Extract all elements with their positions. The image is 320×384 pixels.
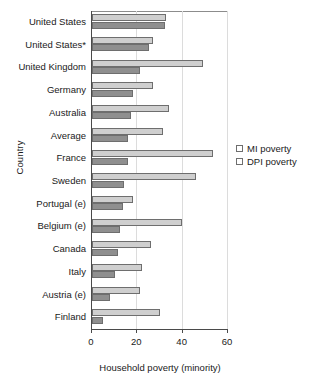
- bar-mi-poverty: [92, 60, 203, 67]
- bar-mi-poverty: [92, 82, 153, 89]
- bar-mi-poverty: [92, 241, 151, 248]
- category-label: France: [0, 152, 86, 163]
- category-label: Belgium (e): [0, 220, 86, 231]
- bar-dpi-poverty: [92, 271, 115, 278]
- legend-label-mi: MI poverty: [247, 143, 291, 154]
- bar-dpi-poverty: [92, 226, 120, 233]
- legend-label-dpi: DPI poverty: [247, 156, 297, 167]
- bar-dpi-poverty: [92, 135, 128, 142]
- x-axis-title: Household poverty (minority): [60, 362, 260, 373]
- bar-dpi-poverty: [92, 181, 124, 188]
- x-tick: [227, 329, 228, 333]
- bar-mi-poverty: [92, 219, 182, 226]
- category-label: United States: [0, 16, 86, 27]
- category-label: Canada: [0, 243, 86, 254]
- bar-chart: Country United StatesUnited States*Unite…: [0, 0, 320, 384]
- category-label: Average: [0, 130, 86, 141]
- category-label: Finland: [0, 311, 86, 322]
- x-tick-label: 20: [121, 336, 151, 347]
- bar-mi-poverty: [92, 173, 196, 180]
- legend-swatch-icon-dpi: [236, 158, 243, 165]
- x-tick: [182, 329, 183, 333]
- legend-item-mi-poverty: MI poverty: [236, 142, 297, 155]
- bar-dpi-poverty: [92, 158, 128, 165]
- category-label: United States*: [0, 39, 86, 50]
- bar-dpi-poverty: [92, 249, 118, 256]
- x-tick-label: 0: [76, 336, 106, 347]
- bar-dpi-poverty: [92, 22, 165, 29]
- bar-row: United States: [0, 11, 320, 34]
- legend-swatch-icon-mi: [236, 145, 243, 152]
- bar-dpi-poverty: [92, 90, 133, 97]
- x-tick: [91, 329, 92, 333]
- category-label: Sweden: [0, 175, 86, 186]
- bar-mi-poverty: [92, 150, 213, 157]
- bar-dpi-poverty: [92, 317, 103, 324]
- bar-row: United States*: [0, 34, 320, 57]
- bar-row: Sweden: [0, 170, 320, 193]
- bar-row: Germany: [0, 79, 320, 102]
- x-tick-label: 40: [167, 336, 197, 347]
- bar-mi-poverty: [92, 196, 133, 203]
- bar-dpi-poverty: [92, 294, 110, 301]
- bar-mi-poverty: [92, 287, 140, 294]
- category-label: Italy: [0, 266, 86, 277]
- bar-mi-poverty: [92, 264, 142, 271]
- bar-row: Portugal (e): [0, 193, 320, 216]
- category-label: Germany: [0, 84, 86, 95]
- bar-mi-poverty: [92, 309, 160, 316]
- bar-dpi-poverty: [92, 112, 131, 119]
- bar-dpi-poverty: [92, 67, 140, 74]
- category-label: Australia: [0, 107, 86, 118]
- bar-dpi-poverty: [92, 44, 149, 51]
- bar-mi-poverty: [92, 105, 169, 112]
- x-tick-label: 60: [212, 336, 242, 347]
- bar-mi-poverty: [92, 128, 163, 135]
- bar-mi-poverty: [92, 14, 166, 21]
- bar-row: Italy: [0, 261, 320, 284]
- x-tick: [136, 329, 137, 333]
- x-axis-line: [91, 329, 228, 330]
- bar-row: Austria (e): [0, 284, 320, 307]
- bar-dpi-poverty: [92, 203, 123, 210]
- bar-row: Australia: [0, 102, 320, 125]
- bar-row: United Kingdom: [0, 56, 320, 79]
- category-label: Portugal (e): [0, 198, 86, 209]
- category-label: United Kingdom: [0, 61, 86, 72]
- bar-row: Belgium (e): [0, 215, 320, 238]
- legend-item-dpi-poverty: DPI poverty: [236, 155, 297, 168]
- bar-row: Canada: [0, 238, 320, 261]
- chart-legend: MI poverty DPI poverty: [236, 142, 297, 168]
- bar-mi-poverty: [92, 37, 153, 44]
- bar-row: Finland: [0, 306, 320, 329]
- category-label: Austria (e): [0, 289, 86, 300]
